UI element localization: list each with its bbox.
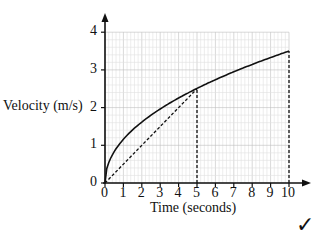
y-tick-label: 0 (90, 174, 97, 190)
x-tick-label: 0 (101, 185, 108, 201)
x-axis-arrow-icon (302, 180, 311, 187)
x-tick-label: 1 (119, 185, 126, 201)
x-tick-label: 8 (248, 185, 255, 201)
x-tick-label: 6 (211, 185, 218, 201)
x-tick-label: 3 (156, 185, 163, 201)
y-tick-label: 1 (90, 136, 97, 152)
x-tick-label: 9 (267, 185, 274, 201)
x-tick-label: 10 (281, 185, 295, 201)
x-tick-label: 4 (175, 185, 182, 201)
y-tick-label: 3 (90, 61, 97, 77)
x-tick-label: 5 (193, 185, 200, 201)
x-tick-label: 7 (230, 185, 237, 201)
y-tick-label: 4 (90, 23, 97, 39)
dashed-line (105, 89, 197, 183)
x-tick-label: 2 (138, 185, 145, 201)
y-axis-label: Velocity (m/s) (3, 98, 83, 114)
y-axis-arrow-icon (102, 13, 109, 22)
y-tick-label: 2 (90, 99, 97, 115)
check-mark: ✓ (296, 212, 314, 235)
x-axis-label: Time (seconds) (150, 200, 236, 216)
